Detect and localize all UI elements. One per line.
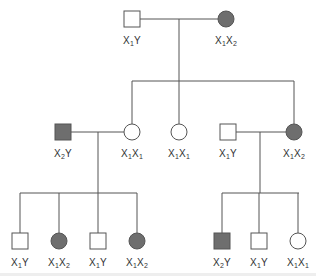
pedigree-graphic bbox=[0, 0, 316, 276]
affected-female-circle-icon bbox=[286, 124, 302, 140]
allele-2: X bbox=[137, 257, 144, 268]
allele-2: X bbox=[179, 148, 186, 159]
allele-2: X bbox=[132, 148, 139, 159]
genotype-label: X2Y bbox=[54, 149, 72, 160]
allele-2: Y bbox=[22, 257, 29, 268]
affected-female-circle-icon bbox=[218, 11, 234, 27]
allele-2: Y bbox=[65, 148, 72, 159]
allele-2-subscript: 2 bbox=[66, 262, 70, 269]
allele-1: X bbox=[219, 148, 226, 159]
allele-2: Y bbox=[100, 257, 107, 268]
allele-1: X bbox=[48, 257, 55, 268]
allele-1: X bbox=[54, 148, 61, 159]
allele-2: Y bbox=[224, 257, 231, 268]
genotype-label: X1Y bbox=[89, 258, 107, 269]
unaffected-male-square-icon bbox=[90, 233, 106, 249]
allele-1: X bbox=[250, 257, 257, 268]
pedigree-diagram: X1YX1X2X2YX1X1X1X1X1YX1X2X1YX1X2X1YX1X2X… bbox=[0, 0, 316, 276]
unaffected-male-square-icon bbox=[124, 11, 140, 27]
genotype-label: X1Y bbox=[11, 258, 29, 269]
allele-1: X bbox=[213, 257, 220, 268]
allele-1: X bbox=[168, 148, 175, 159]
affected-female-circle-icon bbox=[51, 233, 67, 249]
genotype-label: X1Y bbox=[219, 149, 237, 160]
allele-2: X bbox=[298, 257, 305, 268]
affected-female-circle-icon bbox=[129, 233, 145, 249]
allele-1: X bbox=[121, 148, 128, 159]
affected-male-square-icon bbox=[55, 124, 71, 140]
unaffected-female-circle-icon bbox=[290, 233, 306, 249]
allele-1: X bbox=[287, 257, 294, 268]
allele-2: Y bbox=[134, 35, 141, 46]
genotype-label: X1X1 bbox=[121, 149, 143, 160]
allele-1: X bbox=[126, 257, 133, 268]
allele-1: X bbox=[215, 35, 222, 46]
genotype-label: X1X2 bbox=[48, 258, 70, 269]
allele-2-subscript: 1 bbox=[305, 262, 309, 269]
allele-2-subscript: 2 bbox=[301, 153, 305, 160]
allele-2-subscript: 1 bbox=[139, 153, 143, 160]
genotype-label: X1X1 bbox=[287, 258, 309, 269]
allele-1: X bbox=[283, 148, 290, 159]
allele-1: X bbox=[11, 257, 18, 268]
unaffected-male-square-icon bbox=[220, 124, 236, 140]
allele-2: Y bbox=[261, 257, 268, 268]
genotype-label: X2Y bbox=[213, 258, 231, 269]
unaffected-male-square-icon bbox=[12, 233, 28, 249]
affected-male-square-icon bbox=[214, 233, 230, 249]
allele-2-subscript: 1 bbox=[186, 153, 190, 160]
genotype-label: X1Y bbox=[123, 36, 141, 47]
allele-2: X bbox=[226, 35, 233, 46]
allele-1: X bbox=[89, 257, 96, 268]
allele-2-subscript: 2 bbox=[144, 262, 148, 269]
allele-1: X bbox=[123, 35, 130, 46]
unaffected-female-circle-icon bbox=[171, 124, 187, 140]
allele-2: X bbox=[294, 148, 301, 159]
genotype-label: X1X2 bbox=[283, 149, 305, 160]
unaffected-female-circle-icon bbox=[124, 124, 140, 140]
allele-2: X bbox=[59, 257, 66, 268]
genotype-label: X1X2 bbox=[126, 258, 148, 269]
unaffected-male-square-icon bbox=[251, 233, 267, 249]
allele-2-subscript: 2 bbox=[233, 40, 237, 47]
genotype-label: X1Y bbox=[250, 258, 268, 269]
genotype-label: X1X2 bbox=[215, 36, 237, 47]
genotype-label: X1X1 bbox=[168, 149, 190, 160]
allele-2: Y bbox=[230, 148, 237, 159]
